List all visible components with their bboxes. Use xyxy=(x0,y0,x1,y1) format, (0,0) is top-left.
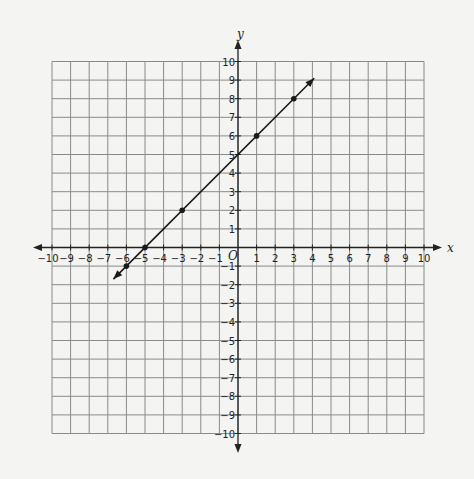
data-point xyxy=(124,263,130,269)
y-tick-label: −6 xyxy=(220,354,235,365)
data-point xyxy=(142,245,148,251)
y-tick-label: 1 xyxy=(229,224,235,235)
x-tick-label: 10 xyxy=(418,253,431,264)
axes: xyO xyxy=(33,27,454,453)
y-tick-label: −8 xyxy=(220,391,235,402)
y-tick-label: 2 xyxy=(229,205,235,216)
y-tick-label: 3 xyxy=(229,187,235,198)
x-tick-label: 2 xyxy=(272,253,278,264)
y-tick-label: −4 xyxy=(220,317,235,328)
x-tick-label: −7 xyxy=(96,253,111,264)
x-tick-label: 3 xyxy=(291,253,297,264)
x-tick-label: −10 xyxy=(37,253,58,264)
x-tick-label: −2 xyxy=(189,253,204,264)
y-tick-label: −5 xyxy=(220,336,235,347)
x-axis-arrow-left-icon xyxy=(33,244,42,251)
y-tick-label: −3 xyxy=(220,298,235,309)
y-axis-label: y xyxy=(236,27,244,41)
x-axis-arrow-right-icon xyxy=(433,244,442,251)
y-axis-arrow-up-icon xyxy=(235,40,242,49)
y-tick-label: 4 xyxy=(229,168,235,179)
y-axis-arrow-down-icon xyxy=(235,444,242,453)
x-tick-label: −3 xyxy=(171,253,186,264)
y-tick-label: 10 xyxy=(222,57,235,68)
x-tick-label: 1 xyxy=(253,253,259,264)
x-tick-label: 6 xyxy=(346,253,352,264)
y-tick-label: 8 xyxy=(229,94,235,105)
x-tick-label: −9 xyxy=(59,253,74,264)
x-tick-label: 7 xyxy=(365,253,371,264)
x-tick-label: 4 xyxy=(309,253,315,264)
y-tick-label: 6 xyxy=(229,131,235,142)
x-tick-label: −5 xyxy=(134,253,149,264)
x-tick-label: −6 xyxy=(115,253,130,264)
x-tick-label: −8 xyxy=(78,253,93,264)
x-tick-label: 9 xyxy=(402,253,408,264)
data-point xyxy=(291,96,297,102)
x-tick-label: −4 xyxy=(152,253,167,264)
y-tick-label: 9 xyxy=(229,75,235,86)
y-tick-label: −2 xyxy=(220,280,235,291)
y-tick-label: 7 xyxy=(229,112,235,123)
x-axis-label: x xyxy=(447,241,454,255)
data-point xyxy=(254,133,260,139)
coordinate-plane: xyO −10−9−8−7−6−5−4−3−2−112345678910−10−… xyxy=(0,0,474,479)
y-tick-label: −9 xyxy=(220,410,235,421)
x-tick-label: 8 xyxy=(384,253,390,264)
x-tick-label: 5 xyxy=(328,253,334,264)
y-tick-label: −7 xyxy=(220,373,235,384)
y-tick-label: −10 xyxy=(214,429,235,440)
data-point xyxy=(179,208,185,214)
y-tick-label: −1 xyxy=(220,261,235,272)
